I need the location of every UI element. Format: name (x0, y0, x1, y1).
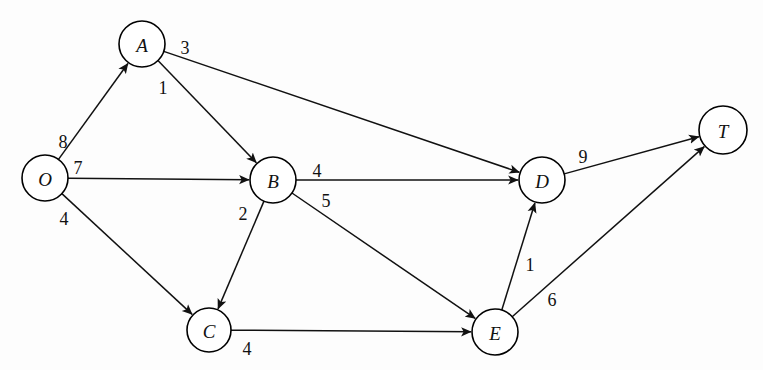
graph-edge (164, 51, 520, 172)
node-label: T (718, 121, 730, 142)
graph-edge (231, 330, 471, 332)
graph-node-d[interactable]: D (519, 157, 565, 203)
graph-node-o[interactable]: O (22, 155, 68, 201)
node-label: A (134, 35, 148, 56)
graph-diagram: 874314524916 OABCDET (0, 0, 763, 370)
graph-node-t[interactable]: T (699, 106, 747, 154)
edge-weight-label: 4 (243, 339, 252, 359)
graph-node-e[interactable]: E (472, 309, 518, 355)
edge-weight-label: 4 (313, 161, 322, 181)
graph-edge (68, 178, 249, 180)
edge-weight-label: 5 (322, 191, 331, 211)
edge-weight-label: 3 (181, 38, 190, 58)
graph-edge (158, 61, 256, 163)
graph-edge (292, 193, 475, 318)
graph-node-c[interactable]: C (187, 308, 231, 352)
graph-canvas: 874314524916 OABCDET (0, 0, 763, 370)
nodes-layer: OABCDET (22, 21, 747, 355)
graph-edge (58, 63, 127, 159)
node-label: D (534, 171, 549, 192)
edge-weights-layer: 874314524916 (59, 38, 588, 359)
edge-weight-label: 8 (59, 132, 68, 152)
edge-weight-label: 7 (74, 158, 83, 178)
edge-weight-label: 1 (159, 78, 168, 98)
edge-weight-label: 4 (60, 209, 69, 229)
graph-node-a[interactable]: A (119, 21, 165, 67)
node-label: E (488, 323, 501, 344)
edges-layer (58, 51, 704, 331)
node-label: C (203, 321, 216, 342)
graph-node-b[interactable]: B (250, 157, 296, 203)
node-label: O (38, 169, 52, 190)
edge-weight-label: 1 (526, 255, 535, 275)
edge-weight-label: 2 (239, 204, 248, 224)
edge-weight-label: 9 (579, 147, 588, 167)
node-label: B (267, 171, 279, 192)
edge-weight-label: 6 (548, 290, 557, 310)
graph-edge (62, 194, 192, 315)
